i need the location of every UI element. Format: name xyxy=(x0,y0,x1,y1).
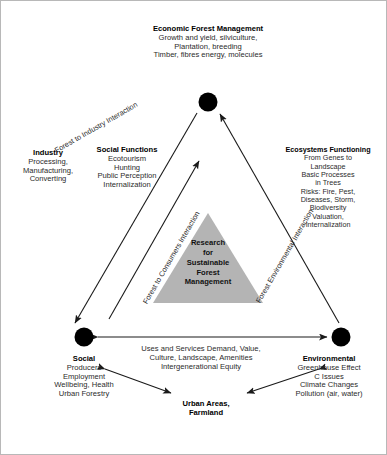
node-economic-label: Economic Forest Management Growth and yi… xyxy=(122,25,294,60)
node-social-dot xyxy=(75,328,94,347)
node-environmental-line-3: Pollution (air, water) xyxy=(273,390,385,399)
node-environmental-dot xyxy=(332,328,351,347)
block-social-functions-line-3: Internalization xyxy=(79,181,175,190)
node-economic-line-2: Timber, fibres energy, molecules xyxy=(122,51,294,60)
block-ecosystems-functioning: Ecosystems Functioning From Genes to Lan… xyxy=(273,146,383,229)
node-economic-dot xyxy=(199,93,218,112)
node-urban-areas-label: Urban Areas, Farmland xyxy=(161,400,251,418)
node-environmental-label: Environmental Greenhouse Effect C Issues… xyxy=(273,355,385,399)
node-urban-areas-line-1: Farmland xyxy=(161,409,251,418)
node-social-line-3: Urban Forestry xyxy=(34,390,134,399)
diagram-figure: Economic Forest Management Growth and yi… xyxy=(0,0,387,455)
block-industry: Industry Processing, Manufacturing, Conv… xyxy=(9,149,87,184)
central-triangle-line-3: Forest xyxy=(171,268,245,278)
central-triangle-line-2: Sustainable xyxy=(171,258,245,268)
central-triangle-line-1: for xyxy=(171,248,245,258)
block-industry-line-2: Converting xyxy=(9,175,87,184)
bottom-flow-line-2: Intergenerational Equity xyxy=(117,363,285,372)
bottom-flow-label: Uses and Services Demand, Value, Culture… xyxy=(117,345,285,371)
central-triangle-line-4: Management xyxy=(171,277,245,287)
block-ecosystems-line-8: Internalization xyxy=(273,221,383,229)
block-social-functions: Social Functions Ecotourism Hunting Publ… xyxy=(79,146,175,190)
